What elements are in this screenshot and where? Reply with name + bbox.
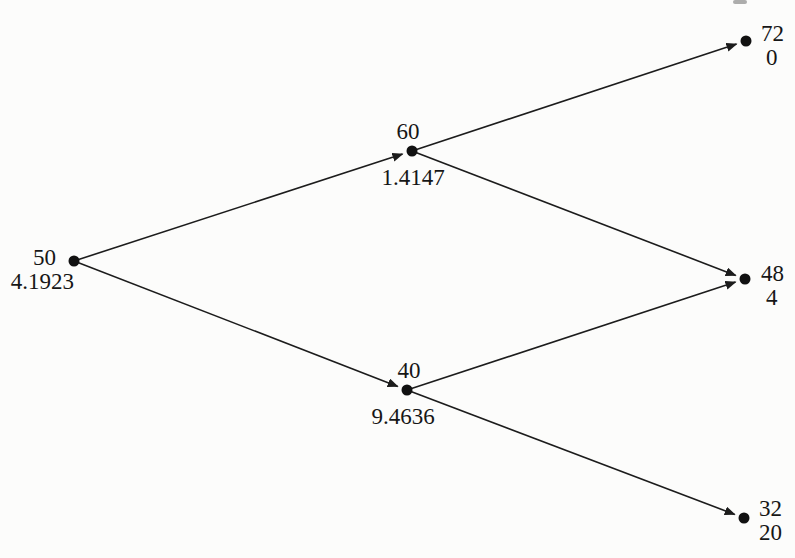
binomial-tree-page: 50 4.1923 60 1.4147 40 9.4636 72 0 48 4 … <box>0 0 795 558</box>
node-downdown-dot <box>739 513 750 524</box>
edge-up-to-upup <box>412 44 737 151</box>
node-upup-price: 72 <box>761 21 784 46</box>
edge-down-to-middle <box>407 282 736 390</box>
node-downdown-value: 20 <box>759 520 782 545</box>
node-up-dot <box>407 146 418 157</box>
edge-root-to-up <box>74 154 403 261</box>
node-down-value: 9.4636 <box>371 404 434 429</box>
edge-down-to-downdown <box>407 390 735 514</box>
node-root-price: 50 <box>33 245 56 270</box>
edge-root-to-down <box>74 261 398 386</box>
edge-up-to-middle <box>412 151 736 275</box>
node-down-price: 40 <box>398 358 421 383</box>
node-root-dot <box>69 256 80 267</box>
binomial-tree-diagram: 50 4.1923 60 1.4147 40 9.4636 72 0 48 4 … <box>0 0 795 558</box>
node-upup-value: 0 <box>766 45 778 70</box>
node-middle-price: 48 <box>761 261 784 286</box>
node-down-dot <box>402 385 413 396</box>
node-middle-value: 4 <box>766 285 778 310</box>
node-upup-dot <box>741 36 752 47</box>
node-up-price: 60 <box>397 119 420 144</box>
node-downdown-price: 32 <box>759 496 782 521</box>
cropped-text-artifact <box>733 0 747 4</box>
node-root-value: 4.1923 <box>11 269 74 294</box>
node-middle-dot <box>740 274 751 285</box>
node-up-value: 1.4147 <box>381 165 444 190</box>
